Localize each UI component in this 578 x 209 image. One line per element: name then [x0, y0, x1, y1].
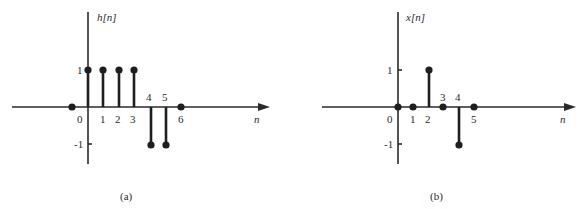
y-tick-label-pos: 1: [77, 64, 83, 76]
stem-point-n5: [162, 141, 169, 148]
stem-point-n1: [409, 103, 416, 110]
x-tick-label-5: 5: [162, 91, 168, 103]
panel-b: x[n] 1 -1 0 1 2 3 4 5 n (b): [322, 11, 576, 203]
stem-point-n4: [147, 141, 154, 148]
x-tick-label-2: 2: [425, 113, 431, 125]
stem-point-n2: [115, 66, 122, 73]
stem-point-n2: [425, 66, 432, 73]
stem-point-n-minus1: [68, 103, 75, 110]
stem-point-n3: [439, 103, 446, 110]
stem-point-n0: [394, 103, 401, 110]
x-tick-label-0: 0: [387, 113, 393, 125]
panel-caption-a: (a): [120, 190, 133, 203]
panel-a: h[n] 1 -1 0 1 2 3 4 5 6 n (a): [12, 11, 270, 203]
stem-point-n4: [455, 141, 462, 148]
x-tick-label-0: 0: [77, 113, 83, 125]
y-axis-label: x[n]: [405, 11, 425, 23]
x-tick-label-3: 3: [130, 113, 136, 125]
stem-point-n5: [470, 103, 477, 110]
figure: h[n] 1 -1 0 1 2 3 4 5 6 n (a) x[n] 1: [0, 0, 578, 209]
x-axis-arrow-icon: [258, 103, 270, 111]
x-tick-label-2: 2: [115, 113, 121, 125]
x-tick-label-3: 3: [440, 91, 446, 103]
stem-point-n3: [130, 66, 137, 73]
x-tick-label-4: 4: [146, 91, 152, 103]
y-tick-label-neg: -1: [74, 138, 83, 150]
x-axis-label: n: [560, 113, 566, 125]
y-axis-label: h[n]: [97, 11, 117, 23]
x-axis-label: n: [254, 113, 260, 125]
x-axis-arrow-icon: [564, 103, 576, 111]
y-tick-label-pos: 1: [387, 64, 393, 76]
x-tick-label-1: 1: [100, 113, 106, 125]
x-tick-label-1: 1: [410, 113, 416, 125]
x-tick-label-6: 6: [178, 113, 184, 125]
stem-point-n1: [99, 66, 106, 73]
x-tick-label-4: 4: [455, 91, 461, 103]
panel-caption-b: (b): [430, 190, 443, 203]
x-tick-label-5: 5: [471, 113, 477, 125]
stem-point-n6: [177, 103, 184, 110]
y-tick-label-neg: -1: [384, 138, 393, 150]
stem-point-n0: [84, 66, 91, 73]
